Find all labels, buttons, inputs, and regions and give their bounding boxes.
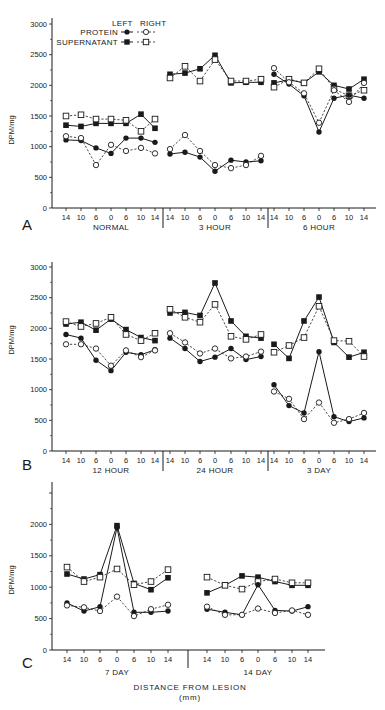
data-point xyxy=(305,604,310,609)
data-point xyxy=(138,111,144,117)
data-point xyxy=(63,319,69,325)
x-tick-label: 10 xyxy=(181,213,189,222)
data-point xyxy=(331,88,336,93)
panel-c: 0500100015002000DPM/mgC141060610147 DAY1… xyxy=(7,482,325,677)
y-tick-label: 2000 xyxy=(30,81,47,90)
data-point xyxy=(197,78,203,84)
group-label: 7 DAY xyxy=(105,668,129,677)
data-point xyxy=(138,354,143,359)
x-tick-label: 10 xyxy=(242,456,250,465)
data-point xyxy=(331,414,336,419)
x-tick-label: 6 xyxy=(94,213,98,222)
data-point xyxy=(286,343,292,349)
data-point xyxy=(301,318,307,324)
x-tick-label: 10 xyxy=(221,655,229,664)
data-point xyxy=(316,66,322,72)
x-tick-label: 6 xyxy=(198,456,202,465)
y-tick-label: 1500 xyxy=(30,112,47,121)
data-point xyxy=(361,96,366,101)
data-point xyxy=(258,332,264,338)
y-tick-label: 500 xyxy=(34,614,47,623)
data-point xyxy=(152,348,157,353)
x-tick-label: 14 xyxy=(270,456,278,465)
y-tick-label: 0 xyxy=(43,646,47,655)
x-tick-label: 6 xyxy=(198,213,202,222)
legend-header-right: RIGHT xyxy=(140,19,166,28)
x-tick-label: 14 xyxy=(166,456,174,465)
data-point xyxy=(138,129,144,135)
data-point xyxy=(93,116,99,122)
data-point xyxy=(258,349,263,354)
x-tick-label: 0 xyxy=(256,655,260,664)
data-point xyxy=(182,70,188,76)
data-point xyxy=(316,400,321,405)
data-point xyxy=(131,613,136,618)
data-point xyxy=(316,129,321,134)
x-tick-label: 0 xyxy=(213,456,217,465)
data-point xyxy=(152,125,158,131)
data-point xyxy=(289,580,295,586)
data-point xyxy=(182,132,187,137)
y-axis-label: DPM/mg xyxy=(7,565,16,594)
data-point xyxy=(78,335,83,340)
data-point xyxy=(93,145,98,150)
y-tick-label: 1500 xyxy=(30,355,47,364)
data-point xyxy=(108,151,113,156)
x-tick-label: 14 xyxy=(270,213,278,222)
data-point xyxy=(301,410,306,415)
x-tick-label: 0 xyxy=(213,213,217,222)
data-point xyxy=(152,116,158,122)
data-point xyxy=(361,80,366,85)
y-tick-label: 0 xyxy=(43,447,47,456)
data-point xyxy=(123,332,129,338)
data-point xyxy=(64,564,70,570)
x-tick-label: 14 xyxy=(151,456,159,465)
data-point xyxy=(197,359,202,364)
data-point xyxy=(165,608,170,613)
data-point xyxy=(228,318,234,324)
x-tick-label: 14 xyxy=(62,456,70,465)
x-tick-label: 14 xyxy=(166,213,174,222)
data-point xyxy=(152,338,158,344)
x-tick-label: 0 xyxy=(317,213,321,222)
data-point xyxy=(93,346,98,351)
data-point xyxy=(301,91,306,96)
data-point xyxy=(167,331,172,336)
data-point xyxy=(204,574,210,580)
data-point xyxy=(331,420,336,425)
x-tick-label: 14 xyxy=(257,213,265,222)
data-point xyxy=(148,579,154,585)
x-tick-label: 0 xyxy=(109,456,113,465)
panel-b: 050010001500200025003000DPM/mgB141060610… xyxy=(7,262,376,475)
data-point xyxy=(301,80,307,86)
data-point xyxy=(316,303,322,309)
data-point xyxy=(286,396,291,401)
data-point xyxy=(258,153,263,158)
x-tick-label: 6 xyxy=(273,655,277,664)
data-point xyxy=(97,574,103,580)
data-point xyxy=(243,78,249,84)
data-point xyxy=(239,586,245,592)
data-point xyxy=(286,356,292,362)
group-label: 14 DAY xyxy=(244,668,273,677)
x-tick-label: 6 xyxy=(332,213,336,222)
data-point xyxy=(346,354,352,360)
data-point xyxy=(286,80,291,85)
data-point xyxy=(93,321,99,327)
data-point xyxy=(197,154,202,159)
panel-letter: C xyxy=(22,654,33,671)
x-tick-label: 10 xyxy=(285,213,293,222)
data-point xyxy=(93,162,98,167)
data-point xyxy=(212,169,217,174)
x-tick-label: 10 xyxy=(345,456,353,465)
data-point xyxy=(64,571,70,577)
x-axis-title: DISTANCE FROM LESION (mm) xyxy=(133,683,246,702)
data-point xyxy=(204,604,209,609)
data-point xyxy=(212,346,217,351)
data-point xyxy=(212,354,217,359)
data-point xyxy=(204,590,210,596)
data-point xyxy=(212,57,218,63)
y-tick-label: 2500 xyxy=(30,293,47,302)
data-point xyxy=(331,338,337,344)
x-tick-label: 14 xyxy=(164,655,172,664)
